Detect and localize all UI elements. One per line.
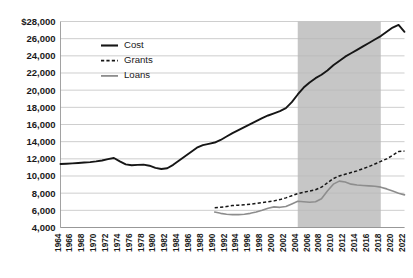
x-tick-label: 2022: [397, 233, 407, 252]
x-tick-label: 2020: [385, 233, 395, 252]
x-tick-label: 1984: [171, 233, 181, 252]
x-tick-label: 2000: [266, 233, 276, 252]
y-tick-label: 12,000: [26, 153, 55, 164]
y-tick-label: 14,000: [26, 136, 55, 147]
x-tick-label: 1982: [159, 233, 169, 252]
x-tick-label: 1966: [64, 233, 74, 252]
y-tick-label: 26,000: [26, 33, 55, 44]
y-tick-label: 6,000: [32, 205, 56, 216]
x-tick-label: 1978: [136, 233, 146, 252]
x-tick-label: 1990: [207, 233, 217, 252]
x-tick-label: 1994: [230, 233, 240, 252]
x-tick-label: 1970: [88, 233, 98, 252]
chart-figure: $28,00026,00024,00022,00020,00018,00016,…: [0, 0, 413, 278]
figure-caption: [2, 268, 242, 278]
y-axis-tick-labels: $28,00026,00024,00022,00020,00018,00016,…: [21, 16, 55, 233]
x-tick-label: 2012: [337, 233, 347, 252]
line-chart: $28,00026,00024,00022,00020,00018,00016,…: [0, 0, 413, 278]
x-tick-label: 2010: [325, 233, 335, 252]
y-tick-label: 18,000: [26, 102, 55, 113]
x-tick-label: 2004: [290, 233, 300, 252]
x-tick-label: 1992: [219, 233, 229, 252]
y-tick-label: 20,000: [26, 85, 55, 96]
y-tick-label: 4,000: [32, 222, 56, 233]
y-tick-label: $28,000: [21, 16, 55, 27]
x-tick-label: 2008: [313, 233, 323, 252]
y-tick-label: 10,000: [26, 170, 55, 181]
x-tick-label: 2018: [373, 233, 383, 252]
y-tick-label: 8,000: [32, 188, 56, 199]
x-tick-label: 1968: [76, 233, 86, 252]
x-tick-label: 2016: [361, 233, 371, 252]
x-tick-label: 2002: [278, 233, 288, 252]
x-tick-label: 1986: [183, 233, 193, 252]
y-tick-label: 16,000: [26, 119, 55, 130]
x-tick-label: 1998: [254, 233, 264, 252]
x-tick-label: 1980: [147, 233, 157, 252]
x-tick-label: 1974: [112, 233, 122, 252]
legend-label-grants: Grants: [124, 54, 153, 65]
y-tick-label: 24,000: [26, 50, 55, 61]
x-tick-label: 2014: [349, 233, 359, 252]
x-tick-label: 1972: [100, 233, 110, 252]
x-axis-tick-labels: 1964196619681970197219741976197819801982…: [53, 233, 407, 252]
x-tick-label: 1996: [242, 233, 252, 252]
x-tick-label: 1976: [124, 233, 134, 252]
x-tick-label: 1964: [53, 233, 63, 252]
legend-label-loans: Loans: [124, 69, 150, 80]
x-tick-label: 1988: [195, 233, 205, 252]
x-tick-label: 2006: [302, 233, 312, 252]
chart-legend: CostGrantsLoans: [101, 39, 153, 80]
legend-label-cost: Cost: [124, 39, 144, 50]
y-tick-label: 22,000: [26, 67, 55, 78]
